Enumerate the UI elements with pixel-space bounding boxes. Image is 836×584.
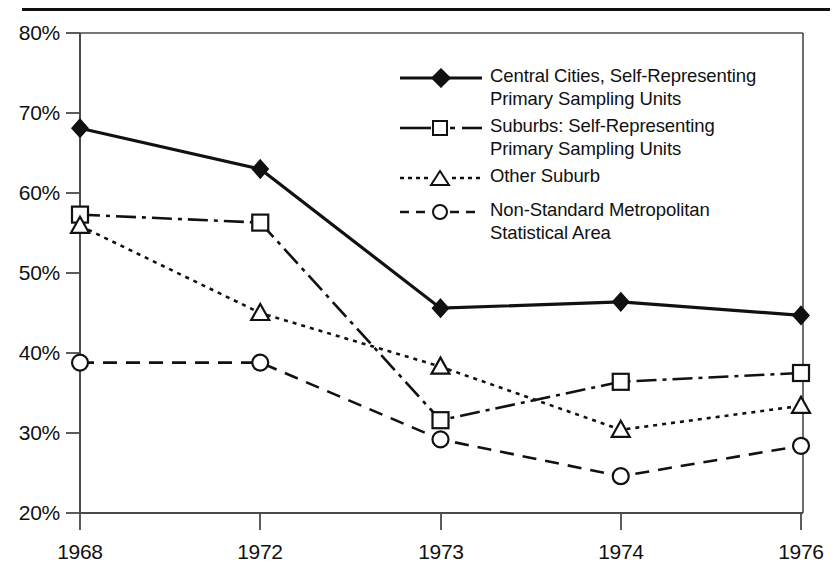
- data-point-marker: [793, 365, 809, 381]
- data-point-marker: [793, 306, 809, 324]
- x-tick-label-1973: 1973: [391, 540, 491, 564]
- chart-figure: 80% 70% 60% 50% 40% 30% 20% 1968 1972 19…: [0, 0, 836, 584]
- legend-label-suburbs-srpsu-line1: Suburbs: Self-Representing: [490, 114, 798, 137]
- legend-label-non-standard-msa-line1: Non-Standard Metropolitan: [490, 198, 798, 221]
- legend-item-suburbs-srpsu: Suburbs: Self-Representing Primary Sampl…: [398, 114, 798, 160]
- x-axis-ticks: [80, 513, 801, 530]
- legend-item-other-suburb: Other Suburb: [398, 164, 798, 194]
- data-point-marker: [613, 374, 629, 390]
- data-point-marker: [252, 355, 268, 371]
- y-tick-label-20: 20%: [0, 501, 60, 525]
- y-tick-label-70: 70%: [0, 101, 60, 125]
- legend-label-central-cities-line1: Central Cities, Self-Representing: [490, 64, 798, 87]
- y-axis-ticks: [66, 33, 80, 513]
- x-tick-label-1968: 1968: [30, 540, 130, 564]
- legend-key-solid-diamond-icon: [398, 68, 484, 88]
- y-tick-label-60: 60%: [0, 181, 60, 205]
- data-point-marker: [433, 412, 449, 428]
- data-point-marker: [792, 397, 810, 413]
- x-tick-label-1974: 1974: [571, 540, 671, 564]
- y-tick-label-50: 50%: [0, 261, 60, 285]
- x-tick-label-1972: 1972: [210, 540, 310, 564]
- legend-item-central-cities: Central Cities, Self-Representing Primar…: [398, 64, 798, 110]
- y-tick-label-40: 40%: [0, 341, 60, 365]
- legend-key-dashdot-square-icon: [398, 118, 484, 138]
- data-point-marker: [72, 119, 88, 137]
- legend-key-dotted-triangle-icon: [398, 168, 484, 188]
- data-point-marker: [613, 468, 629, 484]
- data-point-marker: [433, 431, 449, 447]
- y-tick-label-80: 80%: [0, 21, 60, 45]
- data-point-marker: [72, 355, 88, 371]
- legend-key-dashed-circle-icon: [398, 202, 484, 222]
- legend-label-non-standard-msa-line2: Statistical Area: [490, 221, 798, 244]
- data-point-marker: [793, 438, 809, 454]
- x-tick-label-1976: 1976: [751, 540, 836, 564]
- legend-label-other-suburb-line1: Other Suburb: [490, 164, 798, 187]
- series-2: [71, 217, 810, 437]
- legend-item-non-standard-msa: Non-Standard Metropolitan Statistical Ar…: [398, 198, 798, 244]
- data-point-marker: [613, 293, 629, 311]
- legend-label-central-cities-line2: Primary Sampling Units: [490, 87, 798, 110]
- chart-legend: Central Cities, Self-Representing Primar…: [398, 64, 798, 248]
- legend-label-suburbs-srpsu-line2: Primary Sampling Units: [490, 137, 798, 160]
- data-point-marker: [251, 304, 269, 320]
- data-point-marker: [252, 215, 268, 231]
- y-tick-label-30: 30%: [0, 421, 60, 445]
- series-line: [80, 226, 801, 430]
